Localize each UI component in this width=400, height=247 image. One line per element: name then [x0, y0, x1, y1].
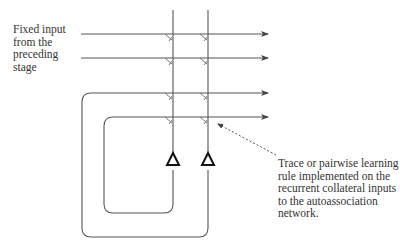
synapse-icon: [165, 93, 172, 100]
fixed-input-label: Fixed input from the preceding stage: [13, 23, 93, 73]
cell-body-triangle-icon: [167, 153, 179, 165]
synapse-icon: [200, 117, 207, 124]
dendrites: [173, 10, 208, 155]
synapses: [165, 34, 207, 124]
synapse-icon: [165, 34, 172, 41]
synapse-icon: [200, 93, 207, 100]
synapse-icon: [200, 58, 207, 65]
fixed-input-lines: [81, 34, 268, 58]
synapse-icon: [165, 58, 172, 65]
recurrent-collateral-inner: [104, 117, 268, 213]
cell-body-triangle-icon: [202, 153, 214, 165]
cell-bodies: [167, 153, 214, 165]
annotation-dashed-arrow: [218, 124, 276, 155]
synapse-icon: [165, 117, 172, 124]
synapse-icon: [200, 34, 207, 41]
learning-rule-annotation: Trace or pairwise learning rule implemen…: [278, 157, 400, 220]
